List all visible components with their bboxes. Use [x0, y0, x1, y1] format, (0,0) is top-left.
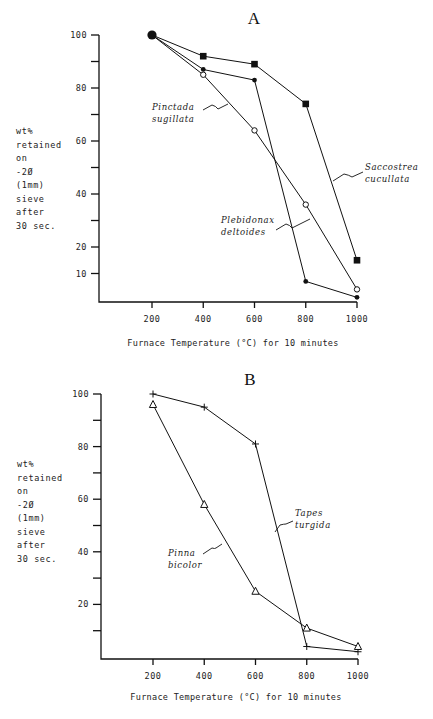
marker-open-triangle: [303, 624, 310, 631]
y-axis-label-line: wt%: [17, 459, 34, 469]
label-line: turgida: [295, 520, 331, 530]
series-line-pinctada-sugillata: [152, 35, 357, 289]
x-tick-label: 1000: [347, 671, 369, 681]
marker-open-circle: [354, 287, 359, 292]
y-axis-label-line: (1mm): [16, 180, 45, 190]
x-tick-label: 800: [298, 671, 315, 681]
y-axis-label-line: sieve: [17, 527, 46, 537]
panel-a-x-axis-title: Furnace Temperature (°C) for 10 minutes: [127, 338, 338, 348]
label-line: deltoides: [221, 227, 266, 237]
marker-open-circle: [303, 202, 308, 207]
marker-plus: [252, 440, 259, 447]
label-pinctada-sugillata: Pinctada sugillata: [151, 102, 228, 124]
y-axis-label-line: 30 sec.: [17, 554, 57, 564]
leader-brace: [203, 544, 222, 554]
marker-filled-square: [251, 61, 258, 68]
panel-a: A wt%retainedon-2Ø(1mm)sieveafter30 sec.…: [16, 9, 418, 348]
label-line: sugillata: [152, 114, 194, 124]
y-axis-label-line: after: [17, 540, 46, 550]
marker-filled-square: [200, 53, 207, 60]
label-line: Pinctada: [151, 102, 194, 112]
figure: A wt%retainedon-2Ø(1mm)sieveafter30 sec.…: [0, 0, 433, 719]
y-tick-label: 100: [72, 389, 89, 399]
panel-a-y-axis-label: wt%retainedon-2Ø(1mm)sieveafter30 sec.: [16, 126, 62, 231]
y-axis-label-line: -2Ø: [16, 167, 33, 177]
label-line: cucullata: [365, 174, 410, 184]
y-tick-label: 20: [76, 242, 87, 252]
marker-filled-circle: [355, 295, 360, 300]
panel-b-x-axis-title: Furnace Temperature (°C) for 10 minutes: [130, 692, 341, 702]
x-tick-label: 600: [247, 671, 264, 681]
y-axis-label-line: (1mm): [17, 513, 46, 523]
y-tick-label: 40: [76, 189, 87, 199]
marker-filled-circle: [252, 78, 257, 83]
marker-large-filled-circle: [147, 30, 156, 39]
leader-brace: [276, 219, 310, 230]
label-line: Pinna: [167, 548, 195, 558]
label-line: Plebidonax: [220, 215, 275, 225]
label-plebidonax-deltoides: Plebidonax deltoides: [220, 215, 310, 237]
marker-open-triangle: [252, 587, 259, 594]
panel-a-title: A: [248, 9, 261, 28]
marker-filled-square: [354, 257, 361, 264]
label-saccostrea-cucullata: Saccostrea cucullata: [333, 162, 418, 184]
panel-b: B wt%retainedon-2Ø(1mm)sieveafter30 sec.…: [17, 370, 369, 702]
y-tick-label: 20: [78, 599, 89, 609]
y-tick-label: 10: [76, 269, 87, 279]
marker-filled-square: [302, 101, 309, 108]
x-tick-label: 400: [195, 314, 212, 324]
label-tapes-turgida: Tapes turgida: [275, 508, 331, 532]
label-line: Saccostrea: [365, 162, 418, 172]
marker-plus: [201, 404, 208, 411]
x-tick-label: 600: [246, 314, 263, 324]
label-line: bicolor: [168, 560, 202, 570]
y-axis-label-line: on: [16, 153, 27, 163]
x-tick-label: 200: [145, 671, 162, 681]
x-tick-label: 800: [297, 314, 314, 324]
y-tick-label: 60: [78, 494, 89, 504]
panel-b-y-axis-label: wt%retainedon-2Ø(1mm)sieveafter30 sec.: [17, 459, 63, 564]
y-tick-label: 60: [76, 136, 87, 146]
marker-filled-circle: [201, 67, 206, 72]
y-axis-label-line: retained: [17, 473, 63, 483]
marker-open-circle: [252, 128, 257, 133]
y-axis-label-line: on: [17, 486, 28, 496]
marker-plus: [150, 391, 157, 398]
panel-a-axes: 10080604020102004006008001000: [70, 30, 368, 324]
marker-open-triangle: [201, 500, 208, 507]
y-axis-label-line: retained: [16, 140, 62, 150]
y-axis-label-line: wt%: [16, 126, 33, 136]
marker-open-circle: [201, 72, 206, 77]
y-tick-label: 80: [76, 83, 87, 93]
y-axis-label-line: sieve: [16, 194, 45, 204]
leader-brace: [203, 104, 228, 110]
y-tick-label: 80: [78, 442, 89, 452]
marker-open-triangle: [149, 401, 156, 408]
marker-plus: [303, 643, 310, 650]
panel-b-title: B: [244, 370, 255, 389]
panel-b-axes: 100806040202004006008001000: [72, 389, 369, 681]
y-axis-label-line: 30 sec.: [16, 221, 56, 231]
y-axis-label-line: -2Ø: [17, 500, 34, 510]
x-tick-label: 1000: [346, 314, 368, 324]
y-tick-label: 40: [78, 547, 89, 557]
y-axis-label-line: after: [16, 207, 45, 217]
panel-a-series: [147, 30, 360, 299]
y-tick-label: 100: [70, 30, 87, 40]
label-line: Tapes: [295, 508, 323, 518]
leader-brace: [333, 172, 363, 181]
marker-filled-circle: [303, 279, 308, 284]
x-tick-label: 400: [196, 671, 213, 681]
x-tick-label: 200: [144, 314, 161, 324]
label-pinna-bicolor: Pinna bicolor: [167, 544, 222, 570]
